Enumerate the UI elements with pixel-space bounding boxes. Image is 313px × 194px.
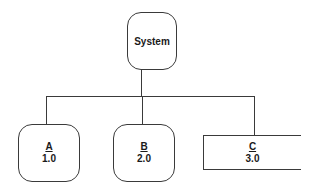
- connector-to-c: [254, 96, 255, 135]
- child-node-id: A: [45, 141, 52, 153]
- child-node-c[interactable]: C 3.0: [203, 135, 301, 170]
- child-node-a[interactable]: A 1.0: [18, 124, 80, 182]
- child-node-b[interactable]: B 2.0: [113, 124, 175, 182]
- root-node-system[interactable]: System: [127, 12, 177, 70]
- connector-to-b: [142, 96, 143, 124]
- child-node-number: 1.0: [42, 153, 56, 165]
- connector-to-a: [46, 96, 47, 124]
- root-node-label: System: [134, 36, 170, 47]
- child-node-id: C: [249, 141, 256, 153]
- connector-horizontal-bus: [46, 96, 255, 97]
- child-node-id: B: [140, 141, 147, 153]
- connector-root-down: [141, 70, 142, 96]
- child-node-number: 2.0: [137, 153, 151, 165]
- child-node-number: 3.0: [246, 153, 260, 165]
